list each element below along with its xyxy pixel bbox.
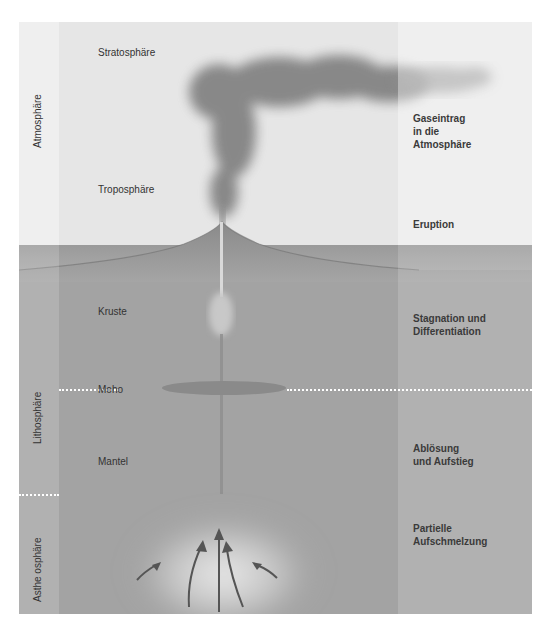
zone-label-lithosphere: Lithosphäre xyxy=(32,392,43,444)
process-label-partial-melting: Partielle Aufschmelzung xyxy=(413,522,487,548)
zone-label-atmosphere: Atmosphäre xyxy=(32,94,43,148)
conduit xyxy=(220,222,223,297)
layer-label-stratosphere: Stratosphäre xyxy=(98,47,155,58)
melt-zone xyxy=(129,502,319,614)
moho-line-right xyxy=(287,389,532,391)
layer-label-moho: Moho xyxy=(98,384,123,395)
moho-sill xyxy=(162,381,286,395)
ash-plume xyxy=(189,55,429,217)
process-label-stagnation: Stagnation und Differentiation xyxy=(413,312,486,338)
magma-chamber xyxy=(209,292,233,336)
process-label-eruption: Eruption xyxy=(413,218,454,231)
layer-label-mantle: Mantel xyxy=(98,456,128,467)
layer-label-crust: Kruste xyxy=(98,306,127,317)
zone-label-asthenosphere: Asthe osphäre xyxy=(32,538,43,603)
process-label-gas-input: Gaseintrag in die Atmosphäre xyxy=(413,112,471,151)
process-label-detachment: Ablösung und Aufstieg xyxy=(413,442,474,468)
layer-label-troposphere: Troposphäre xyxy=(98,184,154,195)
volcano-diagram: Atmosphäre Lithosphäre Asthe osphäre Str… xyxy=(19,22,532,614)
lithosphere-boundary xyxy=(19,494,59,496)
